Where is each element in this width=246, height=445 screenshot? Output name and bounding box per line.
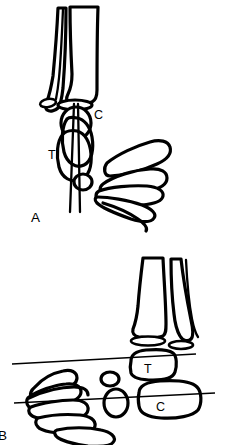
panel-b-label-c: C: [156, 400, 165, 414]
panel-a-label-t: T: [48, 148, 56, 162]
tarsal-stack-5-b: [55, 428, 115, 445]
malleolus-plate-left-b: [131, 337, 165, 346]
tibia-outline-b: [133, 258, 166, 338]
panel-a-label-c: C: [94, 108, 103, 122]
tibia-outline-a: [67, 7, 98, 104]
navicular-round-b: [101, 372, 119, 386]
cuboid-oval-b: [104, 389, 128, 417]
talus-body-b: [130, 350, 176, 380]
panel-b-label-t: T: [144, 362, 152, 376]
panel-a-identifier: A: [31, 210, 40, 225]
malleolus-plate-right-b: [169, 341, 193, 349]
figure-drawing: C T A: [0, 0, 246, 445]
calcaneus-body-b: [138, 381, 201, 418]
figure-container: C T A: [0, 0, 246, 445]
panel-a-drawing: C T A: [31, 7, 170, 231]
panel-b-identifier: B: [0, 428, 7, 443]
panel-b-drawing: T C B: [0, 258, 215, 445]
small-tarsal-round-a: [74, 174, 92, 190]
